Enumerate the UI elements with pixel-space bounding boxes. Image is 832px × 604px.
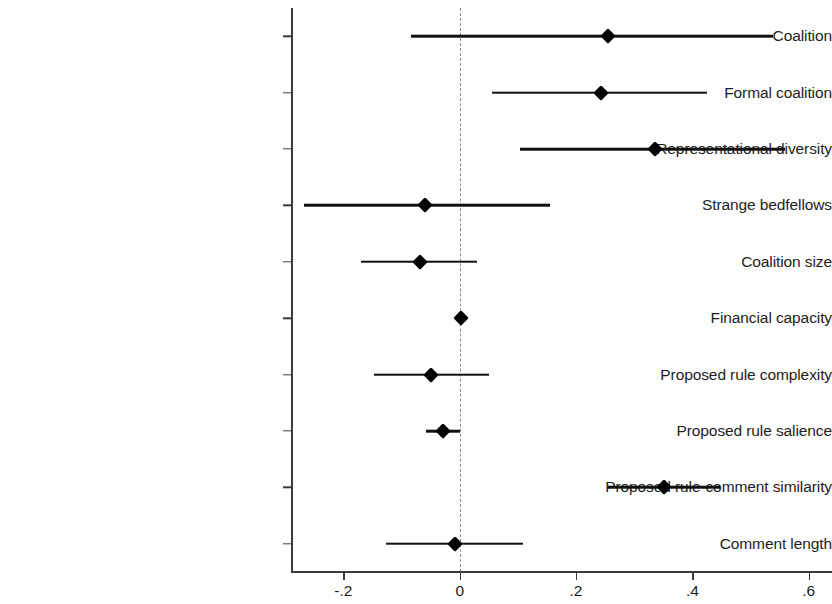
y-axis-tick (283, 430, 291, 431)
x-axis-tick (343, 572, 344, 580)
x-axis-tick (460, 572, 461, 580)
x-axis-tick-label: .6 (802, 582, 815, 600)
confidence-interval-line (411, 35, 773, 38)
y-axis-tick (283, 92, 291, 93)
x-axis-tick-label: 0 (455, 582, 464, 600)
y-axis-spine (291, 8, 293, 572)
estimate-marker (423, 367, 439, 383)
y-axis-tick (283, 261, 291, 262)
y-axis-tick (283, 148, 291, 149)
estimate-marker (435, 423, 451, 439)
y-axis-label: Strange bedfellows (554, 197, 832, 213)
y-axis-tick (283, 35, 291, 36)
y-axis-tick (283, 543, 291, 544)
x-axis-tick (576, 572, 577, 580)
y-axis-label: Proposed rule salience (554, 423, 832, 439)
y-axis-label: Comment length (554, 536, 832, 552)
zero-reference-line (460, 8, 461, 572)
x-axis-tick-label: .4 (686, 582, 699, 600)
coefficient-plot-figure: CoalitionFormal coalitionRepresentationa… (0, 0, 832, 604)
x-axis-tick (809, 572, 810, 580)
x-axis-spine (291, 571, 832, 573)
y-axis-label: Proposed rule complexity (554, 367, 832, 383)
y-axis-tick (283, 487, 291, 488)
x-axis-tick-label: -.2 (334, 582, 352, 600)
y-axis-tick (283, 317, 291, 318)
y-axis-tick (283, 374, 291, 375)
estimate-marker (417, 198, 433, 214)
y-axis-tick (283, 205, 291, 206)
estimate-marker (453, 310, 469, 326)
y-axis-label: Coalition size (554, 254, 832, 270)
estimate-marker (412, 254, 428, 270)
y-axis-label: Financial capacity (554, 310, 832, 326)
x-axis-tick (692, 572, 693, 580)
x-axis-tick-label: .2 (570, 582, 583, 600)
